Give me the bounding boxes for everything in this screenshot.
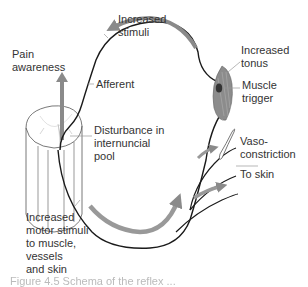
leader-lines [70, 34, 258, 206]
label-line: awareness [12, 61, 65, 74]
label-line: Increased [241, 44, 289, 57]
label-line: to muscle, [26, 237, 88, 250]
label-line: Pain [12, 48, 65, 61]
label-increased-tonus: Increased tonus [241, 44, 289, 70]
label-line: constriction [240, 148, 296, 161]
label-line: internuncial [94, 137, 164, 150]
label-vasoconstriction: Vaso- constriction [240, 135, 296, 161]
efferent-branch-skin [176, 194, 238, 232]
label-line: Increased [26, 211, 88, 224]
figure-caption: Figure 4.5 Schema of the reflex ... [10, 275, 176, 287]
label-muscle-trigger: Muscle trigger [242, 79, 277, 105]
label-afferent: Afferent [96, 78, 134, 91]
label-line: vessels [26, 250, 88, 263]
muscle-icon [213, 66, 232, 120]
label-increased-stimuli: Increased stimuli [118, 13, 166, 39]
label-line: Disturbance in [94, 124, 164, 137]
label-line: Vaso- [240, 135, 296, 148]
vessel-icon [219, 129, 234, 159]
label-line: Muscle [242, 79, 277, 92]
label-disturbance: Disturbance in internuncial pool [94, 124, 164, 163]
label-line: trigger [242, 92, 277, 105]
trigger-point-icon [216, 84, 222, 93]
label-line: stimuli [118, 26, 166, 39]
label-to-skin: To skin [240, 168, 274, 181]
label-increased-motor: Increased motor stimuli to muscle, vesse… [26, 211, 88, 276]
label-line: motor stimuli [26, 224, 88, 237]
label-pain-awareness: Pain awareness [12, 48, 65, 74]
label-line: pool [94, 150, 164, 163]
label-line: Increased [118, 13, 166, 26]
motor-arrow-icon [90, 200, 178, 232]
label-line: tonus [241, 57, 289, 70]
